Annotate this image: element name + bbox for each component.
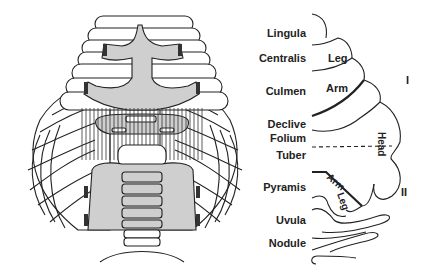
label-map-two: II bbox=[401, 186, 407, 198]
cerebellum-surface-view bbox=[28, 16, 242, 262]
label-culmen: Culmen bbox=[266, 85, 307, 97]
label-arm-upper: Arm bbox=[326, 82, 348, 94]
cerebellum-diagram: Lingula Centralis Culmen Declive Folium … bbox=[0, 0, 426, 276]
label-pyramis: Pyramis bbox=[263, 181, 306, 193]
label-declive: Declive bbox=[267, 118, 306, 130]
label-tuber: Tuber bbox=[276, 149, 306, 161]
label-uvula: Uvula bbox=[276, 214, 307, 226]
label-map-one: I bbox=[406, 74, 409, 86]
label-leg-upper: Leg bbox=[328, 52, 348, 64]
label-nodule: Nodule bbox=[269, 237, 306, 249]
label-lingula: Lingula bbox=[267, 27, 307, 39]
label-head: Head bbox=[376, 132, 387, 156]
label-centralis: Centralis bbox=[259, 52, 306, 64]
label-folium: Folium bbox=[270, 132, 306, 144]
